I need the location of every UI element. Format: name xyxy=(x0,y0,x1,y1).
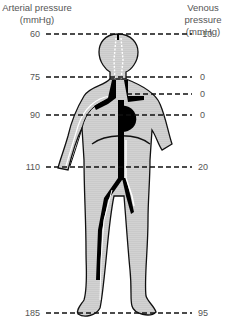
arterial-label-neck: 75 xyxy=(18,72,40,82)
arterial-label-heart: 90 xyxy=(18,110,40,120)
venous-label-feet: 95 xyxy=(198,308,208,318)
venous-label-heart: 0 xyxy=(200,110,205,120)
venous-label-head: −10 xyxy=(197,29,212,39)
arterial-label-head: 60 xyxy=(18,29,40,39)
head xyxy=(99,34,138,80)
venous-label-shoulder: 0 xyxy=(200,89,205,99)
venous-label-neck: 0 xyxy=(200,72,205,82)
arterial-label-feet: 185 xyxy=(18,308,40,318)
arterial-label-abdomen: 110 xyxy=(18,162,40,172)
venous-label-abdomen: 20 xyxy=(198,162,208,172)
